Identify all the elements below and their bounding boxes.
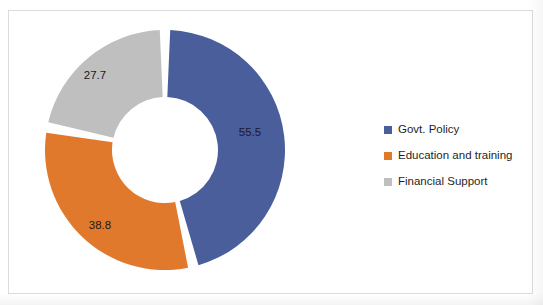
data-label-education-and-training: 38.8 bbox=[89, 219, 111, 231]
data-label-govt-policy: 55.5 bbox=[239, 126, 261, 138]
legend-swatch-icon bbox=[384, 152, 392, 160]
legend-item-education-and-training[interactable]: Education and training bbox=[384, 143, 534, 169]
slice-education-and-training[interactable] bbox=[45, 133, 188, 270]
legend-swatch-icon bbox=[384, 178, 392, 186]
legend-item-label: Govt. Policy bbox=[398, 124, 459, 136]
legend-swatch-icon bbox=[384, 126, 392, 134]
chart-screenshot: 55.5 38.8 27.7 Govt. Policy Education an… bbox=[0, 0, 543, 305]
slice-govt-policy[interactable] bbox=[167, 30, 285, 265]
legend-item-govt-policy[interactable]: Govt. Policy bbox=[384, 117, 534, 143]
data-label-financial-support: 27.7 bbox=[84, 69, 106, 81]
legend-item-label: Financial Support bbox=[398, 176, 488, 188]
legend-item-financial-support[interactable]: Financial Support bbox=[384, 169, 534, 195]
doughnut-slices bbox=[45, 30, 285, 270]
slice-financial-support[interactable] bbox=[48, 30, 162, 138]
legend-item-label: Education and training bbox=[398, 150, 512, 162]
chart-legend: Govt. Policy Education and training Fina… bbox=[384, 117, 534, 195]
